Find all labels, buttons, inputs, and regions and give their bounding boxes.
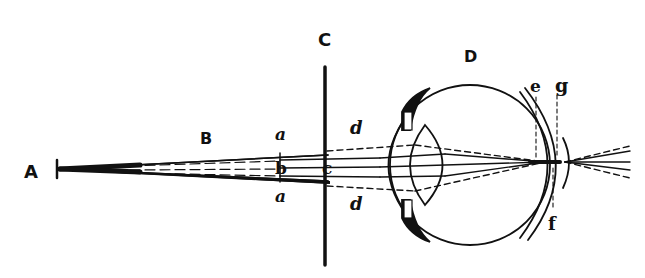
label-c-aperture: C (318, 29, 331, 50)
label-c-point: c (322, 158, 332, 178)
marginal-rays-d (327, 145, 630, 191)
label-f: f (548, 213, 557, 234)
label-g: g (555, 74, 568, 96)
lens-g (563, 138, 569, 188)
label-d-top: d (350, 117, 363, 138)
label-d-bottom: d (350, 193, 363, 214)
label-e: e (530, 76, 541, 96)
label-a-object: A (24, 161, 38, 182)
label-b-point: b (275, 158, 287, 178)
eye-d (389, 85, 556, 245)
converging-rays (380, 151, 630, 177)
label-d-eye: D (464, 47, 477, 66)
light-cone-b (57, 155, 330, 230)
eye-optics-diagram: A B C D a a b c d d e g f (0, 0, 645, 278)
label-b-cone: B (200, 129, 212, 148)
label-a-bottom: a (275, 186, 286, 206)
label-a-top: a (275, 124, 286, 144)
